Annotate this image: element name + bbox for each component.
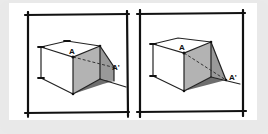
right-frame-top bbox=[137, 13, 245, 14]
right-frame-bottom bbox=[137, 111, 246, 112]
right-sketch: A A' bbox=[137, 10, 246, 117]
left-frame-bottom bbox=[25, 112, 129, 113]
right-cube-vertex bbox=[210, 41, 213, 44]
left-label-a: A bbox=[69, 47, 75, 56]
left-label-a-prime: A' bbox=[112, 63, 120, 72]
right-label-a: A bbox=[179, 43, 185, 52]
right-label-a-prime: A' bbox=[229, 73, 237, 82]
left-frame-right bbox=[127, 11, 128, 116]
left-frame-top bbox=[25, 14, 129, 15]
right-cube-bottom-left bbox=[153, 76, 184, 91]
right-cube-vertex bbox=[183, 90, 186, 93]
left-cube-vertex bbox=[99, 45, 102, 48]
left-sketch: A A' bbox=[25, 11, 129, 117]
left-cube-vertex bbox=[72, 93, 75, 96]
right-point-a-prime-marker bbox=[225, 79, 228, 82]
diagram-canvas: A A' bbox=[0, 0, 268, 134]
figure-background: A A' bbox=[0, 0, 268, 134]
left-cube-bottom-left bbox=[41, 78, 73, 94]
